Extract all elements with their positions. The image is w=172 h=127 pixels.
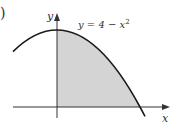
graph-canvas: ) y x y = 4 − x2 [0,0,172,127]
x-axis-arrow-icon [162,104,170,110]
y-axis-arrow-icon [54,13,60,21]
curve-label: y = 4 − x2 [77,18,130,30]
y-axis-label: y [46,10,54,23]
curve-label-exponent: 2 [125,18,129,26]
shaded-region [57,30,140,107]
x-axis-label: x [162,112,169,125]
curve-label-text: y = 4 − x [77,19,125,30]
part-marker: ) [0,5,5,21]
